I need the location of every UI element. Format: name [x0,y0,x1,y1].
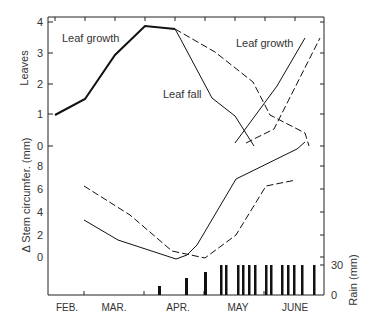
month-feb: FEB. [56,302,78,313]
rain-bar [254,265,257,295]
rain-bar [293,265,296,295]
rain-bar [281,265,284,295]
leaves-axis-label: Leaves [18,50,30,86]
rain-axis-label: Rain (mm) [347,254,359,305]
stem-tick-0: 0 [37,251,43,263]
annotation-leaf-fall: Leaf fall [163,88,202,100]
stem-axis-label: Δ Stem circumfer. (mm) [20,138,32,253]
top-ticks [55,17,295,21]
rain-bar [220,265,223,295]
rain-bar [301,265,304,295]
rain-bar [225,265,228,295]
annotation-leaf-growth-summer: Leaf growth [236,37,293,49]
stem-dashed-line [84,180,296,258]
rain-bars [158,265,316,295]
stem-solid-line [84,142,305,259]
rain-bar [287,265,290,295]
leaves-tick-4: 4 [37,16,43,28]
stem-tick-4: 4 [37,206,43,218]
rain-bar [204,272,207,295]
rain-bar [185,278,188,295]
rain-bar [242,265,245,295]
leaf-growth-solid-line [235,38,305,143]
leaves-tick-1: 1 [37,108,43,120]
month-mar: MAR. [102,302,127,313]
leaves-ticks [48,22,53,146]
month-june: JUNE [282,302,308,313]
annotation-leaf-growth-spring: Leaf growth [62,32,119,44]
leaves-tick-0: 0 [37,140,43,152]
month-apr: APR. [166,302,189,313]
stem-series [84,142,305,259]
rain-tick-0: 0 [331,289,337,301]
rain-bar [237,265,240,295]
rain-bar [158,286,161,295]
stem-tick-2: 2 [37,229,43,241]
leaves-tick-3: 3 [37,47,43,59]
rain-bar [270,265,273,295]
rain-bar [313,265,316,295]
phenology-chart: 4 3 2 1 0 Leaves 8 6 4 2 0 Δ Stem circum… [0,0,377,323]
stem-tick-6: 6 [37,183,43,195]
leaves-tick-2: 2 [37,78,43,90]
rain-tick-30: 30 [331,259,343,271]
stem-tick-8: 8 [37,160,43,172]
right-ticks [320,22,324,265]
month-may: MAY [228,302,249,313]
rain-bar [248,265,251,295]
rain-bar [265,265,268,295]
